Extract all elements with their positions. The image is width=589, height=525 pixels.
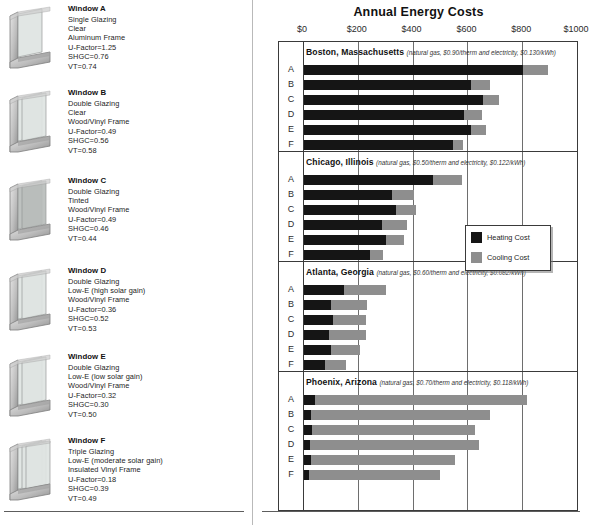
window-spec-line: Wood/Vinyl Frame <box>68 117 252 126</box>
energy-cost-chart: Annual Energy Costs $0$200$400$600$800$1… <box>252 0 585 525</box>
bar-segment-heating <box>304 190 392 200</box>
bar-segment-cooling <box>370 250 384 260</box>
city-rate-annotation: (natural gas, $0.70/therm and electricit… <box>380 379 529 386</box>
city-rate-annotation: (natural gas, $0.50/therm and electricit… <box>376 159 525 166</box>
legend-item-cooling: Cooling Cost <box>471 252 529 263</box>
window-spec-line: Double Glazing <box>68 99 252 108</box>
bar-segment-cooling <box>453 140 463 150</box>
stacked-bar <box>304 440 479 450</box>
window-spec-text-b: Window BDouble GlazingClearWood/Vinyl Fr… <box>64 88 252 155</box>
legend-label: Heating Cost <box>487 233 530 242</box>
bar-segment-cooling <box>396 205 417 215</box>
stacked-bar <box>304 455 455 465</box>
bar-segment-heating <box>304 80 471 90</box>
bar-row-label-c: C <box>279 204 303 214</box>
plot-area: Boston, Massachusetts (natural gas, $0.9… <box>278 41 578 511</box>
city-name: Atlanta, Georgia <box>306 267 374 277</box>
window-title: Window C <box>68 176 252 186</box>
x-axis-tick-labels: $0$200$400$600$800$1000 <box>252 24 585 38</box>
stacked-bar <box>304 175 462 185</box>
bar-segment-heating <box>304 140 453 150</box>
bar-segment-heating <box>304 235 386 245</box>
x-axis-tick-200: $200 <box>347 24 367 34</box>
window-spec-line: SHGC=0.56 <box>68 136 252 145</box>
bar-segment-heating <box>304 125 471 135</box>
bar-segment-cooling <box>471 80 490 90</box>
window-cross-section-single-glazing-icon <box>0 4 64 78</box>
stacked-bar <box>304 190 414 200</box>
legend-label: Cooling Cost <box>487 253 529 262</box>
stacked-bar <box>304 110 482 120</box>
window-spec-line: Double Glazing <box>68 187 252 196</box>
window-title: Window E <box>68 352 252 362</box>
bar-segment-cooling <box>386 235 404 245</box>
stacked-bar <box>304 235 404 245</box>
window-spec-line: Wood/Vinyl Frame <box>68 205 252 214</box>
legend-swatch-icon <box>471 232 482 243</box>
window-title: Window D <box>68 266 252 276</box>
bar-segment-heating <box>304 250 370 260</box>
bar-segment-cooling <box>471 125 486 135</box>
bar-row-label-f: F <box>279 249 303 259</box>
chart-title: Annual Energy Costs <box>252 5 585 19</box>
stacked-bar <box>304 65 548 75</box>
stacked-bar <box>304 250 383 260</box>
x-axis-tick-600: $600 <box>456 24 476 34</box>
bar-row-label-d: D <box>279 439 303 449</box>
bar-segment-heating <box>304 315 333 325</box>
window-cross-section-triple-glazing-icon <box>0 436 64 510</box>
bar-segment-cooling <box>309 470 439 480</box>
bar-segment-heating <box>304 300 331 310</box>
window-spec-line: U-Factor=1.25 <box>68 43 252 52</box>
window-spec-line: SHGC=0.76 <box>68 52 252 61</box>
window-spec-line: Clear <box>68 108 252 117</box>
bar-segment-cooling <box>333 315 366 325</box>
city-label-0: Boston, Massachusetts (natural gas, $0.9… <box>306 47 556 57</box>
bar-segment-cooling <box>483 95 498 105</box>
bar-segment-cooling <box>433 175 462 185</box>
window-spec-line: Aluminum Frame <box>68 33 252 42</box>
window-specs-panel: Window ASingle GlazingClearAluminum Fram… <box>0 0 252 525</box>
stacked-bar <box>304 345 360 355</box>
bar-row-label-b: B <box>279 79 303 89</box>
bar-row-label-a: A <box>279 174 303 184</box>
bar-segment-cooling <box>392 190 414 200</box>
window-spec-line: Double Glazing <box>68 277 252 286</box>
stacked-bar <box>304 470 440 480</box>
window-spec-row-a: Window ASingle GlazingClearAluminum Fram… <box>0 4 252 78</box>
stacked-bar <box>304 285 386 295</box>
window-spec-row-b: Window BDouble GlazingClearWood/Vinyl Fr… <box>0 88 252 162</box>
bar-row-label-c: C <box>279 314 303 324</box>
window-spec-line: U-Factor=0.49 <box>68 215 252 224</box>
window-spec-line: SHGC=0.52 <box>68 314 252 323</box>
bar-segment-cooling <box>312 425 475 435</box>
city-separator <box>279 151 577 152</box>
bar-row-label-e: E <box>279 124 303 134</box>
bar-row-label-c: C <box>279 424 303 434</box>
window-spec-line: VT=0.49 <box>68 494 252 503</box>
x-axis-tick-400: $400 <box>402 24 422 34</box>
bar-row-label-d: D <box>279 219 303 229</box>
bar-row-label-b: B <box>279 409 303 419</box>
window-spec-line: VT=0.74 <box>68 62 252 71</box>
legend-item-heating: Heating Cost <box>471 232 530 243</box>
window-spec-row-c: Window CDouble GlazingTintedWood/Vinyl F… <box>0 176 252 250</box>
city-name: Phoenix, Arizona <box>306 377 377 387</box>
window-spec-line: Low-E (high solar gain) <box>68 286 252 295</box>
window-spec-text-e: Window EDouble GlazingLow-E (low solar g… <box>64 352 252 419</box>
bar-row-label-f: F <box>279 359 303 369</box>
window-spec-line: Low-E (low solar gain) <box>68 372 252 381</box>
legend-swatch-icon <box>471 252 482 263</box>
stacked-bar <box>304 95 499 105</box>
city-name: Chicago, Illinois <box>306 157 374 167</box>
window-spec-line: U-Factor=0.32 <box>68 391 252 400</box>
bar-segment-cooling <box>331 345 360 355</box>
bar-segment-cooling <box>311 410 490 420</box>
window-spec-line: U-Factor=0.49 <box>68 127 252 136</box>
bar-segment-heating <box>304 410 311 420</box>
bar-segment-heating <box>304 65 523 75</box>
window-spec-text-f: Window FTriple GlazingLow-E (moderate so… <box>64 436 252 503</box>
stacked-bar <box>304 205 416 215</box>
window-cross-section-double-glazing-icon <box>0 88 64 162</box>
